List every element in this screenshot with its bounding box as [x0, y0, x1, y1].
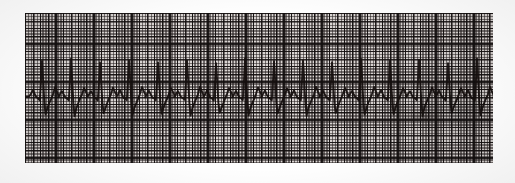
- ecg-trace-path: [25, 58, 493, 116]
- ecg-strip-scan: [0, 0, 515, 183]
- ecg-waveform-trace: [25, 13, 493, 163]
- ecg-graph-paper: [25, 13, 493, 163]
